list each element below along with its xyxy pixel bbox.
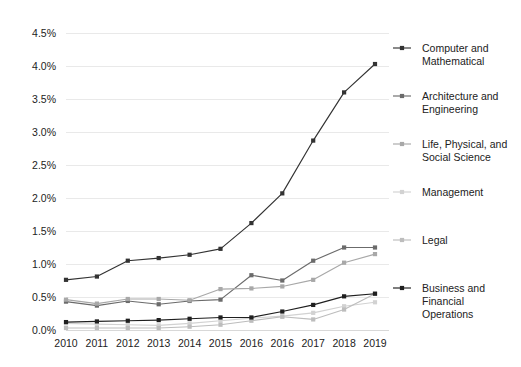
chart-series xyxy=(64,62,377,282)
data-point-marker xyxy=(311,278,315,282)
data-point-marker xyxy=(311,303,315,307)
data-point-marker xyxy=(249,286,253,290)
data-point-marker xyxy=(95,326,99,330)
data-point-marker xyxy=(311,317,315,321)
y-axis-tick-label: 4.0% xyxy=(32,60,56,72)
x-axis-tick-label: 2011 xyxy=(86,337,109,349)
data-point-marker xyxy=(280,191,284,195)
data-point-marker xyxy=(157,302,161,306)
data-point-marker xyxy=(218,315,222,319)
x-axis-tick-label: 2018 xyxy=(332,337,356,349)
data-point-marker xyxy=(95,319,99,323)
chart-legend: Computer andMathematicalArchitecture and… xyxy=(393,42,507,320)
data-point-marker xyxy=(373,292,377,296)
legend-label: Management xyxy=(422,186,483,198)
x-axis-tick-label: 2016 xyxy=(271,337,295,349)
data-point-marker xyxy=(126,297,130,301)
data-point-marker xyxy=(218,247,222,251)
x-axis-tick-label: 2017 xyxy=(302,337,326,349)
data-point-marker xyxy=(157,318,161,322)
chart-series xyxy=(64,245,377,307)
data-point-marker xyxy=(126,326,130,330)
y-axis-tick-label: 3.0% xyxy=(32,126,56,138)
data-point-marker xyxy=(249,273,253,277)
legend-entry[interactable]: Architecture andEngineering xyxy=(393,90,499,115)
data-point-marker xyxy=(218,298,222,302)
legend-entry[interactable]: Management xyxy=(393,186,483,198)
legend-entry[interactable]: Business andFinancialOperations xyxy=(393,282,485,320)
y-axis-tick-label: 1.5% xyxy=(32,225,56,237)
x-axis-tick-label: 2015 xyxy=(209,337,233,349)
legend-swatch-marker xyxy=(400,94,404,98)
data-point-marker xyxy=(249,221,253,225)
data-point-marker xyxy=(280,284,284,288)
legend-swatch-marker xyxy=(400,46,404,50)
data-point-marker xyxy=(64,278,68,282)
data-point-marker xyxy=(311,259,315,263)
legend-swatch-marker xyxy=(400,286,404,290)
x-axis-tick-label: 2012 xyxy=(116,337,140,349)
legend-label: Computer and xyxy=(422,42,489,54)
data-point-marker xyxy=(218,287,222,291)
legend-label: Engineering xyxy=(422,103,478,115)
legend-entry[interactable]: Computer andMathematical xyxy=(393,42,489,67)
data-point-marker xyxy=(188,253,192,257)
data-point-marker xyxy=(342,245,346,249)
data-point-marker xyxy=(95,274,99,278)
data-point-marker xyxy=(64,298,68,302)
chart-canvas: 0.0%0.5%1.0%1.5%2.0%2.5%3.0%3.5%4.0%4.5%… xyxy=(0,0,521,367)
data-point-marker xyxy=(280,278,284,282)
data-point-marker xyxy=(342,294,346,298)
x-axis-tick-labels: 2010201120122013201420152016201620172018… xyxy=(54,337,387,349)
x-axis-tick-label: 2016 xyxy=(240,337,264,349)
legend-swatch-marker xyxy=(400,238,404,242)
data-point-marker xyxy=(64,320,68,324)
legend-swatch-marker xyxy=(400,142,404,146)
chart-series xyxy=(64,292,377,325)
data-point-marker xyxy=(342,261,346,265)
legend-label: Financial xyxy=(422,295,464,307)
data-point-marker xyxy=(373,245,377,249)
data-point-marker xyxy=(280,309,284,313)
x-axis-tick-label: 2019 xyxy=(363,337,387,349)
y-axis-tick-label: 2.0% xyxy=(32,192,56,204)
data-point-marker xyxy=(157,326,161,330)
data-point-marker xyxy=(188,298,192,302)
data-point-marker xyxy=(218,323,222,327)
data-point-marker xyxy=(373,62,377,66)
y-axis-tick-label: 1.0% xyxy=(32,258,56,270)
legend-label: Social Science xyxy=(422,151,491,163)
data-point-marker xyxy=(342,90,346,94)
y-axis-tick-label: 2.5% xyxy=(32,159,56,171)
data-point-marker xyxy=(126,319,130,323)
legend-label: Mathematical xyxy=(422,55,484,67)
legend-label: Architecture and xyxy=(422,90,499,102)
y-axis-tick-labels: 0.0%0.5%1.0%1.5%2.0%2.5%3.0%3.5%4.0%4.5% xyxy=(32,27,56,336)
data-point-marker xyxy=(373,300,377,304)
data-point-marker xyxy=(311,311,315,315)
legend-swatch-marker xyxy=(400,190,404,194)
x-axis-tick-label: 2013 xyxy=(147,337,171,349)
x-axis-tick-label: 2014 xyxy=(178,337,202,349)
data-point-marker xyxy=(311,138,315,142)
legend-entry[interactable]: Legal xyxy=(393,234,448,246)
data-point-marker xyxy=(249,315,253,319)
data-point-marker xyxy=(64,326,68,330)
series-line xyxy=(66,254,375,304)
legend-label: Operations xyxy=(422,308,473,320)
legend-label: Legal xyxy=(422,234,448,246)
data-point-marker xyxy=(280,315,284,319)
legend-label: Business and xyxy=(422,282,485,294)
x-axis-tick-label: 2010 xyxy=(54,337,78,349)
y-axis-tick-label: 4.5% xyxy=(32,27,56,39)
legend-entry[interactable]: Life, Physical, andSocial Science xyxy=(393,138,507,163)
data-point-marker xyxy=(188,317,192,321)
data-point-marker xyxy=(342,307,346,311)
gridlines xyxy=(66,33,389,330)
y-axis-tick-label: 0.0% xyxy=(32,324,56,336)
line-chart: 0.0%0.5%1.0%1.5%2.0%2.5%3.0%3.5%4.0%4.5%… xyxy=(0,0,521,367)
data-point-marker xyxy=(373,252,377,256)
data-point-marker xyxy=(95,302,99,306)
y-axis-tick-label: 0.5% xyxy=(32,291,56,303)
data-point-marker xyxy=(157,297,161,301)
